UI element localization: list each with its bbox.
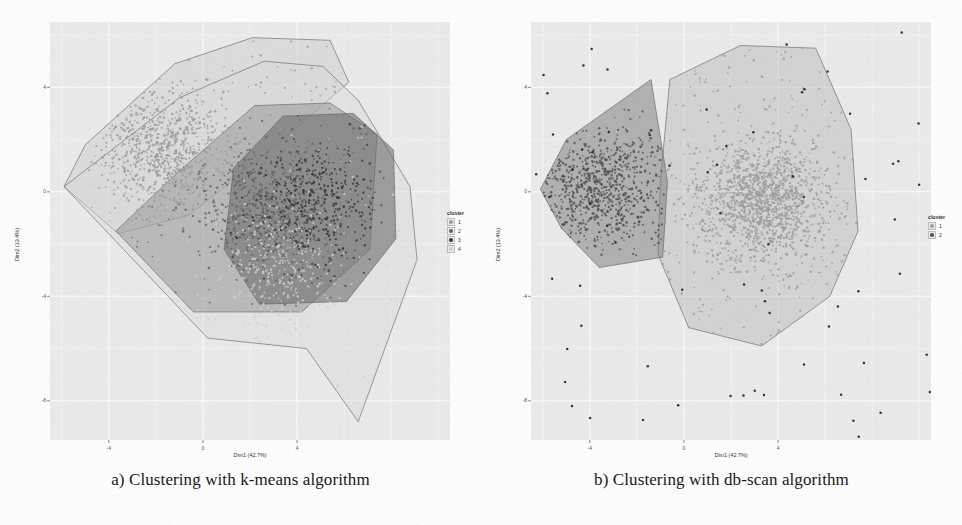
- legend-key-swatch: [447, 236, 455, 244]
- legend-item-label: 1: [458, 218, 461, 227]
- legend-key-swatch: [447, 245, 455, 253]
- x-axis-title-dbscan: Dim1 (42.7%): [671, 452, 791, 458]
- legend-point-icon: [449, 229, 453, 233]
- x-tick-label: 0: [678, 445, 690, 451]
- y-tick-label: -4: [32, 293, 46, 299]
- caption-dbscan: b) Clustering with db-scan algorithm: [481, 470, 962, 490]
- legend-item[interactable]: 2: [928, 231, 945, 240]
- legend-point-icon: [449, 247, 453, 251]
- x-tick-label: 0: [197, 445, 209, 451]
- legend-point-icon: [930, 224, 934, 228]
- legend-kmeans: cluster 1234: [447, 210, 464, 254]
- scatter-plot-dbscan: [481, 0, 962, 470]
- legend-item-label: 1: [939, 222, 942, 231]
- y-tick-label: 4: [513, 84, 527, 90]
- y-axis-title-dbscan: Dim2 (13.4%): [495, 228, 501, 261]
- legend-key-swatch: [928, 222, 936, 230]
- legend-item[interactable]: 4: [447, 245, 464, 254]
- legend-items-dbscan: 12: [928, 222, 945, 240]
- panel-kmeans: -40440-4-8 Dim2 (13.4%) Dim1 (42.7%) clu…: [0, 0, 481, 525]
- y-tick-label: 0: [513, 188, 527, 194]
- legend-item[interactable]: 2: [447, 227, 464, 236]
- legend-point-icon: [449, 238, 453, 242]
- scatter-plot-kmeans: [0, 0, 481, 470]
- legend-item[interactable]: 1: [928, 222, 945, 231]
- caption-kmeans: a) Clustering with k-means algorithm: [0, 470, 481, 490]
- x-tick-label: -4: [103, 445, 115, 451]
- y-tick-label: -8: [513, 397, 527, 403]
- x-tick-label: 4: [291, 445, 303, 451]
- legend-key-swatch: [447, 218, 455, 226]
- clustering-figure: -40440-4-8 Dim2 (13.4%) Dim1 (42.7%) clu…: [0, 0, 962, 525]
- y-tick-label: 0: [32, 188, 46, 194]
- plot-area-dbscan: -40440-4-8: [481, 0, 962, 470]
- legend-title-kmeans: cluster: [447, 210, 464, 216]
- legend-dbscan: cluster 12: [928, 214, 945, 240]
- legend-point-icon: [449, 220, 453, 224]
- legend-item-label: 2: [458, 227, 461, 236]
- x-tick-label: -4: [584, 445, 596, 451]
- legend-key-swatch: [928, 231, 936, 239]
- legend-key-swatch: [447, 227, 455, 235]
- y-tick-label: 4: [32, 84, 46, 90]
- legend-item-label: 4: [458, 245, 461, 254]
- plot-area-kmeans: -40440-4-8: [0, 0, 481, 470]
- legend-point-icon: [930, 233, 934, 237]
- legend-title-dbscan: cluster: [928, 214, 945, 220]
- legend-item[interactable]: 3: [447, 236, 464, 245]
- legend-items-kmeans: 1234: [447, 218, 464, 254]
- y-tick-label: -8: [32, 397, 46, 403]
- panel-dbscan: -40440-4-8 Dim2 (13.4%) Dim1 (42.7%) clu…: [481, 0, 962, 525]
- x-axis-title-kmeans: Dim1 (42.7%): [190, 452, 310, 458]
- legend-item-label: 3: [458, 236, 461, 245]
- legend-item-label: 2: [939, 231, 942, 240]
- y-tick-label: -4: [513, 293, 527, 299]
- legend-item[interactable]: 1: [447, 218, 464, 227]
- x-tick-label: 4: [772, 445, 784, 451]
- y-axis-title-kmeans: Dim2 (13.4%): [14, 228, 20, 261]
